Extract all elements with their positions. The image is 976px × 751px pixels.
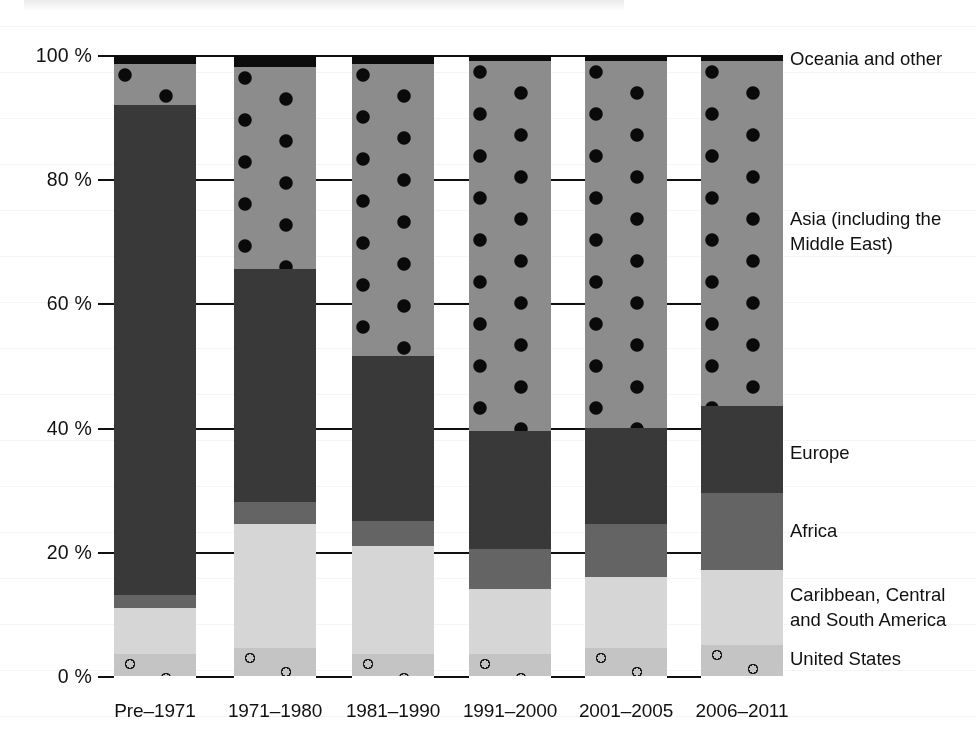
y-axis-gridline xyxy=(196,303,234,305)
y-axis-gridline xyxy=(667,428,701,430)
bar-segment-asia[interactable] xyxy=(114,64,196,104)
bar-segment-europe[interactable] xyxy=(114,105,196,596)
bar-segment-asia[interactable] xyxy=(234,67,316,269)
x-axis-tick-label: 1981–1990 xyxy=(327,700,459,722)
bar-segment-asia[interactable] xyxy=(585,61,667,427)
y-axis-gridline xyxy=(196,179,234,181)
y-axis-gridline xyxy=(316,179,352,181)
y-axis-tick-label: 80 % xyxy=(0,168,92,191)
y-axis-gridline xyxy=(316,303,352,305)
bar-segment-oceania-and-other[interactable] xyxy=(469,55,551,61)
bar-segment-united-states[interactable] xyxy=(114,654,196,676)
legend-label-asia: Asia (including the Middle East) xyxy=(790,206,941,256)
y-axis-gridline xyxy=(98,55,114,57)
bar-segment-oceania-and-other[interactable] xyxy=(701,55,783,61)
y-axis-gridline xyxy=(316,552,352,554)
bar-column[interactable] xyxy=(701,55,783,676)
bar-segment-united-states[interactable] xyxy=(701,645,783,676)
y-axis-gridline xyxy=(98,179,114,181)
legend-label-caribbean-central-south-america: Caribbean, Central and South America xyxy=(790,582,946,632)
bar-segment-oceania-and-other[interactable] xyxy=(114,55,196,64)
x-axis-tick-label: 1991–2000 xyxy=(444,700,576,722)
y-axis-gridline xyxy=(551,179,585,181)
y-axis-gridline xyxy=(667,55,701,57)
y-axis-gridline xyxy=(667,303,701,305)
y-axis-gridline xyxy=(551,55,585,57)
y-axis-gridline xyxy=(551,552,585,554)
y-axis-gridline xyxy=(316,428,352,430)
bar-segment-europe[interactable] xyxy=(469,431,551,549)
bar-segment-caribbean-central-south-america[interactable] xyxy=(469,589,551,654)
y-axis-gridline xyxy=(667,552,701,554)
y-axis-gridline xyxy=(196,428,234,430)
bar-segment-caribbean-central-south-america[interactable] xyxy=(585,577,667,648)
bar-column[interactable] xyxy=(585,55,667,676)
bar-segment-africa[interactable] xyxy=(469,549,551,589)
x-axis-tick-label: 1971–1980 xyxy=(209,700,341,722)
legend-label-united-states: United States xyxy=(790,646,901,671)
y-axis-tick-label: 0 % xyxy=(0,665,92,688)
bar-segment-caribbean-central-south-america[interactable] xyxy=(114,608,196,655)
y-axis-gridline xyxy=(196,676,234,678)
y-axis-gridline xyxy=(667,179,701,181)
bar-segment-caribbean-central-south-america[interactable] xyxy=(701,570,783,645)
bar-segment-africa[interactable] xyxy=(352,521,434,546)
bar-segment-africa[interactable] xyxy=(585,524,667,577)
bar-column[interactable] xyxy=(352,55,434,676)
bar-column[interactable] xyxy=(114,55,196,676)
y-axis-tick-label: 40 % xyxy=(0,416,92,439)
y-axis-gridline xyxy=(434,55,469,57)
legend-label-oceania-and-other: Oceania and other xyxy=(790,46,942,71)
bar-segment-oceania-and-other[interactable] xyxy=(585,55,667,61)
bar-segment-united-states[interactable] xyxy=(469,654,551,676)
y-axis-gridline xyxy=(196,552,234,554)
x-axis-tick-label: 2001–2005 xyxy=(560,700,692,722)
stacked-bar-chart: 100 %80 %60 %40 %20 %0 %Pre–19711971–198… xyxy=(0,0,976,751)
bar-segment-caribbean-central-south-america[interactable] xyxy=(352,546,434,655)
bar-segment-africa[interactable] xyxy=(114,595,196,607)
bar-segment-europe[interactable] xyxy=(701,406,783,493)
y-axis-tick-label: 60 % xyxy=(0,292,92,315)
bar-segment-europe[interactable] xyxy=(234,269,316,502)
bar-segment-united-states[interactable] xyxy=(234,648,316,676)
y-axis-gridline xyxy=(98,303,114,305)
bar-segment-asia[interactable] xyxy=(701,61,783,406)
y-axis-gridline xyxy=(434,552,469,554)
y-axis-gridline xyxy=(98,676,114,678)
y-axis-gridline xyxy=(551,303,585,305)
bar-segment-oceania-and-other[interactable] xyxy=(352,55,434,64)
bar-segment-asia[interactable] xyxy=(352,64,434,356)
y-axis-tick-label: 100 % xyxy=(0,44,92,67)
y-axis-tick-label: 20 % xyxy=(0,540,92,563)
y-axis-gridline xyxy=(551,428,585,430)
x-axis-tick-label: Pre–1971 xyxy=(89,700,221,722)
bar-segment-oceania-and-other[interactable] xyxy=(234,55,316,67)
legend-label-africa: Africa xyxy=(790,518,837,543)
bar-column[interactable] xyxy=(469,55,551,676)
bar-segment-united-states[interactable] xyxy=(352,654,434,676)
x-axis-tick-label: 2006–2011 xyxy=(676,700,808,722)
y-axis-gridline xyxy=(434,428,469,430)
y-axis-gridline xyxy=(434,179,469,181)
y-axis-gridline xyxy=(434,676,469,678)
y-axis-gridline xyxy=(667,676,701,678)
y-axis-gridline xyxy=(551,676,585,678)
y-axis-gridline xyxy=(98,552,114,554)
y-axis-gridline xyxy=(98,428,114,430)
y-axis-gridline xyxy=(434,303,469,305)
legend-label-europe: Europe xyxy=(790,440,850,465)
bar-column[interactable] xyxy=(234,55,316,676)
y-axis-gridline xyxy=(196,55,234,57)
bar-segment-africa[interactable] xyxy=(234,502,316,524)
bar-segment-europe[interactable] xyxy=(352,356,434,521)
bar-segment-africa[interactable] xyxy=(701,493,783,571)
bar-segment-united-states[interactable] xyxy=(585,648,667,676)
bar-segment-caribbean-central-south-america[interactable] xyxy=(234,524,316,648)
y-axis-gridline xyxy=(316,55,352,57)
bar-segment-asia[interactable] xyxy=(469,61,551,430)
y-axis-gridline xyxy=(316,676,352,678)
bar-segment-europe[interactable] xyxy=(585,428,667,524)
